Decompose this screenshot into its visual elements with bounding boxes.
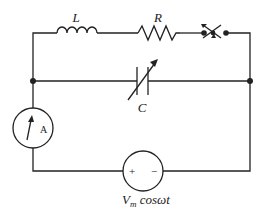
resistor-label: R — [153, 10, 162, 25]
resistor-symbol — [138, 26, 180, 40]
variable-capacitor-symbol — [128, 59, 158, 100]
source-minus-label: − — [151, 165, 157, 177]
wire-left-lower — [33, 148, 123, 171]
capacitor-label: C — [138, 100, 147, 115]
circuit-diagram: L R C A + − Vm cosωt — [0, 0, 265, 215]
inductor-label: L — [71, 10, 79, 25]
source-label: Vm cosωt — [122, 192, 170, 209]
wire-top-left — [33, 33, 57, 81]
switch-symbol — [201, 24, 229, 38]
wire-top-right-end — [226, 33, 250, 81]
source-plus-label: + — [129, 165, 135, 177]
ammeter-label: A — [40, 124, 48, 135]
inductor-symbol — [57, 27, 97, 33]
wire-bottom-right — [163, 81, 250, 171]
